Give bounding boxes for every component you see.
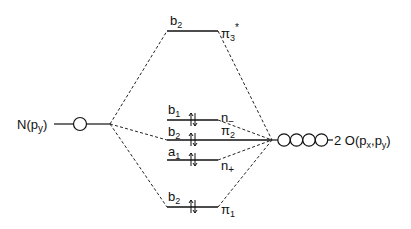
sym-label-pi2: b2 — [168, 124, 180, 141]
corr-n-pi3 — [110, 31, 167, 124]
right-fragment-label: 2 O(px,py) — [334, 133, 391, 150]
sym-label-pi3star: b2 — [170, 13, 182, 30]
corr-n-pi2 — [110, 124, 167, 140]
o-orbital-3 — [303, 134, 315, 146]
o-orbital-2 — [290, 134, 302, 146]
n-py-orbital — [74, 118, 87, 131]
o-orbital-1 — [278, 134, 290, 146]
corr-n-pi1 — [110, 124, 167, 207]
mo-label-n-plus: n+ — [221, 158, 234, 175]
mo-label-pi1: π1 — [221, 202, 235, 219]
mo-label-pi3star: π3* — [221, 22, 239, 43]
sym-label-n-plus: a1 — [168, 144, 180, 161]
left-fragment-label: N(py) — [17, 117, 47, 134]
sym-label-n-minus: b1 — [168, 102, 180, 119]
sym-label-pi1: b2 — [168, 189, 180, 206]
mo-diagram: N(py) b2 π3* b1 n− b2 π2 a1 n+ b2 π1 — [0, 0, 411, 229]
o-orbital-4 — [315, 134, 327, 146]
